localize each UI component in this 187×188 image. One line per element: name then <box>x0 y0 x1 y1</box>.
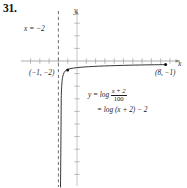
equation-fraction: x + 2 100 <box>111 88 127 103</box>
equation-simplified: = log (x + 2) − 2 <box>97 106 147 114</box>
x-axis-label: x <box>178 59 181 68</box>
point-label-left: (−1, −2) <box>29 69 54 77</box>
equation-lhs: y = log <box>88 91 109 99</box>
fraction-denominator: 100 <box>113 96 125 103</box>
equation-line-2: = log (x + 2) − 2 <box>88 106 147 114</box>
figure-container: 31. <box>0 0 187 188</box>
asymptote-label: x = −2 <box>24 24 45 33</box>
log-curve <box>61 65 167 187</box>
equation-line-1: y = log x + 2 100 <box>88 88 147 103</box>
point-label-right: (8, −1) <box>155 69 175 77</box>
data-point-right <box>164 63 167 66</box>
fraction-numerator: x + 2 <box>111 88 127 95</box>
y-axis-label: y <box>74 6 77 15</box>
data-point-left <box>66 68 69 71</box>
equation-annotation: y = log x + 2 100 = log (x + 2) − 2 <box>88 88 147 113</box>
